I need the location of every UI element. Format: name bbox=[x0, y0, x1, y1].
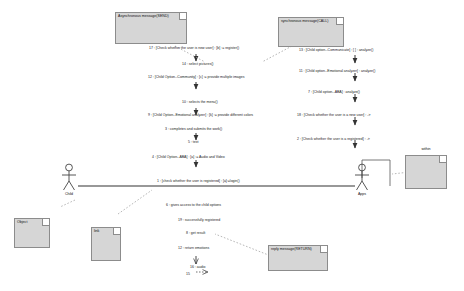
note-within-label: within bbox=[405, 147, 447, 151]
note-asynchronous-message[interactable]: Asynchronous message(SEND) bbox=[115, 12, 187, 44]
message-17[interactable]: 17 : [Check whether the user is new user… bbox=[149, 46, 239, 51]
message-5[interactable]: 5 : text bbox=[188, 140, 199, 145]
note-synchronous-message[interactable]: synchronous message(CALL) bbox=[278, 17, 344, 47]
note-label: Object bbox=[17, 220, 27, 225]
note-object[interactable]: Object bbox=[14, 218, 50, 248]
message-9[interactable]: 9 : [Child Option--Emotional analyzer] :… bbox=[148, 113, 253, 118]
note-label: synchronous message(CALL) bbox=[281, 19, 328, 24]
diagram-connectors bbox=[0, 0, 464, 291]
message-1[interactable]: 1 : [check whether the user is registere… bbox=[157, 179, 240, 184]
message-15[interactable]: 15 bbox=[186, 272, 190, 277]
message-16[interactable]: 16 : audio bbox=[190, 265, 205, 270]
note-fold-icon bbox=[336, 18, 343, 25]
actor-apps[interactable] bbox=[351, 163, 373, 193]
message-6[interactable]: 6 : gives access to the child options bbox=[166, 203, 221, 208]
message-4[interactable]: 4 : [Child Option--ABA] : [a] := Audio a… bbox=[152, 155, 225, 160]
note-fold-icon bbox=[42, 219, 49, 226]
message-10[interactable]: 10 : selects the menu() bbox=[182, 100, 218, 105]
message-14[interactable]: 14 : select pictures() bbox=[182, 62, 214, 67]
actor-stick-figure-icon bbox=[351, 163, 373, 193]
actor-child[interactable] bbox=[58, 163, 80, 193]
message-8[interactable]: 8 : get result bbox=[186, 231, 205, 236]
actor-stick-figure-icon bbox=[58, 163, 80, 193]
message-18[interactable]: 18 : [Check whether the user is a new us… bbox=[297, 113, 370, 118]
message-13[interactable]: 13 : [Child option--Communicate] : [ ] :… bbox=[299, 48, 373, 53]
message-11[interactable]: 11 : [Child option--Emotional analyzer] … bbox=[299, 69, 375, 74]
note-fold-icon bbox=[113, 228, 120, 235]
diagram-canvas: Asynchronous message(SEND) synchronous m… bbox=[0, 0, 464, 291]
note-fold-icon bbox=[439, 156, 446, 163]
message-12b[interactable]: 12 : return emotions bbox=[178, 246, 209, 251]
note-reply-message[interactable]: reply message(RETURN) bbox=[268, 245, 328, 271]
note-label: reply message(RETURN) bbox=[271, 247, 312, 252]
note-fold-icon bbox=[320, 246, 327, 253]
message-3[interactable]: 3 : completes and submits the work() bbox=[165, 127, 222, 132]
message-12[interactable]: 12 : [Child Option--Community] : [c] := … bbox=[148, 75, 244, 80]
note-within[interactable] bbox=[405, 155, 447, 189]
note-label: link bbox=[94, 229, 99, 234]
note-link[interactable]: link bbox=[91, 227, 121, 261]
message-19[interactable]: 19 : successfully registered bbox=[178, 218, 220, 223]
note-label: Asynchronous message(SEND) bbox=[118, 14, 169, 19]
note-fold-icon bbox=[179, 13, 186, 20]
actor-apps-label: Apps bbox=[351, 192, 373, 196]
message-7[interactable]: 7 : [Child option--ABA] : analyze() bbox=[308, 90, 360, 95]
message-2[interactable]: 2 : [Check whether the user is a registe… bbox=[297, 137, 370, 142]
actor-child-label: Child bbox=[58, 192, 80, 196]
